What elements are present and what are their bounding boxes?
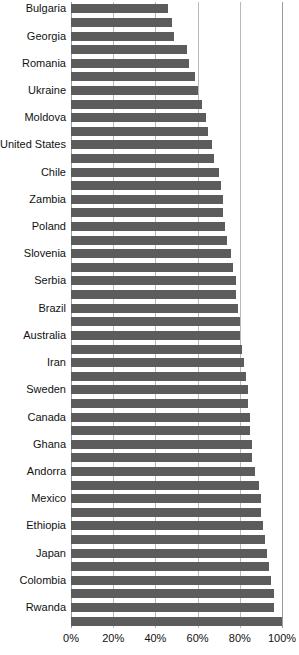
bar [71,535,265,544]
bar-row [71,372,282,381]
bar-row [71,508,282,517]
bar-row [71,589,282,598]
category-label: Slovenia [24,248,66,259]
category-label: Bulgaria [26,3,66,14]
bar [71,481,259,490]
bar [71,617,282,626]
bar-row [71,45,282,54]
bar [71,467,255,476]
bar-row [71,453,282,462]
x-tick-label: 100% [268,632,296,644]
category-label: Zambia [29,194,66,205]
bar-row [71,32,282,41]
bar [71,358,244,367]
bar-row [71,249,282,258]
bar [71,222,225,231]
category-label: Ethiopia [26,520,66,531]
bar [71,290,236,299]
x-tick-label: 80% [229,632,251,644]
category-label: Chile [41,167,66,178]
bar-row [71,331,282,340]
x-tick-label: 60% [187,632,209,644]
x-axis-tick-labels: 0%20%40%60%80%100% [0,632,299,648]
bar-row [71,426,282,435]
bar [71,317,240,326]
bar-row [71,127,282,136]
bar [71,603,274,612]
bar [71,100,202,109]
bar [71,549,267,558]
bar [71,304,238,313]
bar [71,440,252,449]
x-tick-label: 40% [144,632,166,644]
bar-row [71,72,282,81]
bar-row [71,140,282,149]
bar-row [71,562,282,571]
bar [71,154,214,163]
x-tick-label: 0% [63,632,79,644]
bar-row [71,290,282,299]
bar [71,263,233,272]
category-label: Romania [22,58,66,69]
bar [71,426,250,435]
bar-row [71,358,282,367]
bar-row [71,4,282,13]
bar [71,399,248,408]
bar [71,276,236,285]
bar-row [71,18,282,27]
bar [71,127,208,136]
bar-row [71,521,282,530]
category-label: Rwanda [26,602,66,613]
bar-row [71,276,282,285]
bar-row [71,168,282,177]
bar [71,86,198,95]
bar-row [71,467,282,476]
bar-row [71,549,282,558]
bar [71,249,231,258]
bar [71,113,206,122]
bar [71,521,263,530]
bar-row [71,236,282,245]
bar-row [71,535,282,544]
bar-row [71,86,282,95]
category-label: Ghana [33,439,66,450]
bar [71,494,261,503]
bar [71,4,168,13]
category-label: Canada [27,412,66,423]
bar [71,168,219,177]
category-label: Iran [47,357,66,368]
bar [71,562,269,571]
bar [71,453,252,462]
bar [71,331,240,340]
bar-row [71,304,282,313]
bar-row [71,385,282,394]
bar [71,45,187,54]
bar-row [71,208,282,217]
category-label: Sweden [26,384,66,395]
bar [71,576,271,585]
category-label: Australia [23,330,66,341]
bar [71,236,227,245]
bar [71,72,195,81]
bar-row [71,113,282,122]
category-label: Moldova [24,112,66,123]
category-label: Georgia [27,31,66,42]
bar-row [71,59,282,68]
bar [71,372,246,381]
bar [71,181,221,190]
bar-row [71,345,282,354]
category-label: Serbia [34,275,66,286]
category-label: Colombia [20,575,66,586]
bar [71,508,261,517]
bar-row [71,195,282,204]
bar-row [71,317,282,326]
category-label: Ukraine [28,85,66,96]
bar-row [71,576,282,585]
bar-row [71,494,282,503]
bar [71,140,212,149]
bar-row [71,222,282,231]
bar-row [71,100,282,109]
category-label: Poland [32,221,66,232]
bar [71,589,274,598]
bar-row [71,399,282,408]
